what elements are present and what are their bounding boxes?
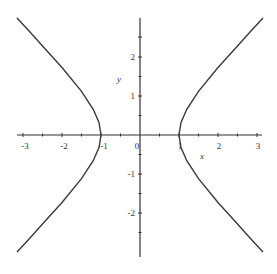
x-tick-label: -2 <box>60 141 68 151</box>
x-tick-label: -1 <box>100 141 108 151</box>
x-tick-label: 0 <box>135 141 140 151</box>
hyperbola-plot: -3 -2 -1 0 1 2 3 2 1 -1 -2 x y <box>0 0 277 274</box>
x-tick-label: -3 <box>21 141 29 151</box>
x-axis-label: x <box>199 151 204 161</box>
y-tick-label: 1 <box>131 91 136 101</box>
x-tick-label: 3 <box>256 141 261 151</box>
y-axis-label: y <box>116 74 121 84</box>
y-tick-label: -2 <box>128 208 136 218</box>
x-tick-label: 2 <box>217 141 222 151</box>
y-tick-label: -1 <box>128 169 136 179</box>
y-tick-label: 2 <box>131 52 136 62</box>
